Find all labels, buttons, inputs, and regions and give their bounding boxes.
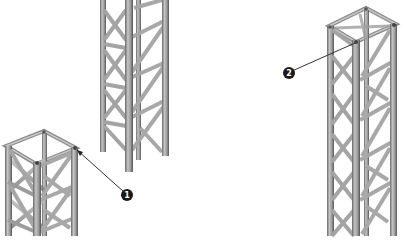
- leader-line-1: [77, 150, 124, 192]
- diagram-canvas: 1 2: [0, 0, 404, 244]
- callout-number-1: 1: [124, 191, 130, 200]
- callout-1: 1: [77, 150, 133, 201]
- tower-right-tall: [327, 7, 397, 236]
- tower-center-hanging: [100, 0, 169, 172]
- tower-left-short: [5, 130, 78, 236]
- callout-number-2: 2: [286, 69, 292, 78]
